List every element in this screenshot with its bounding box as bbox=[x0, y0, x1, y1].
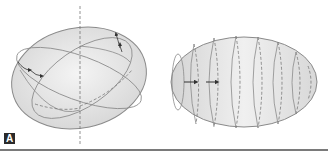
ellipsoid-sections-diagram bbox=[164, 0, 328, 153]
panel-label-a: A bbox=[4, 133, 15, 144]
panel-a: A bbox=[0, 0, 164, 153]
bottom-divider bbox=[0, 149, 328, 151]
panel-b: B bbox=[164, 0, 328, 153]
ellipsoid-rotation-diagram bbox=[0, 0, 164, 153]
